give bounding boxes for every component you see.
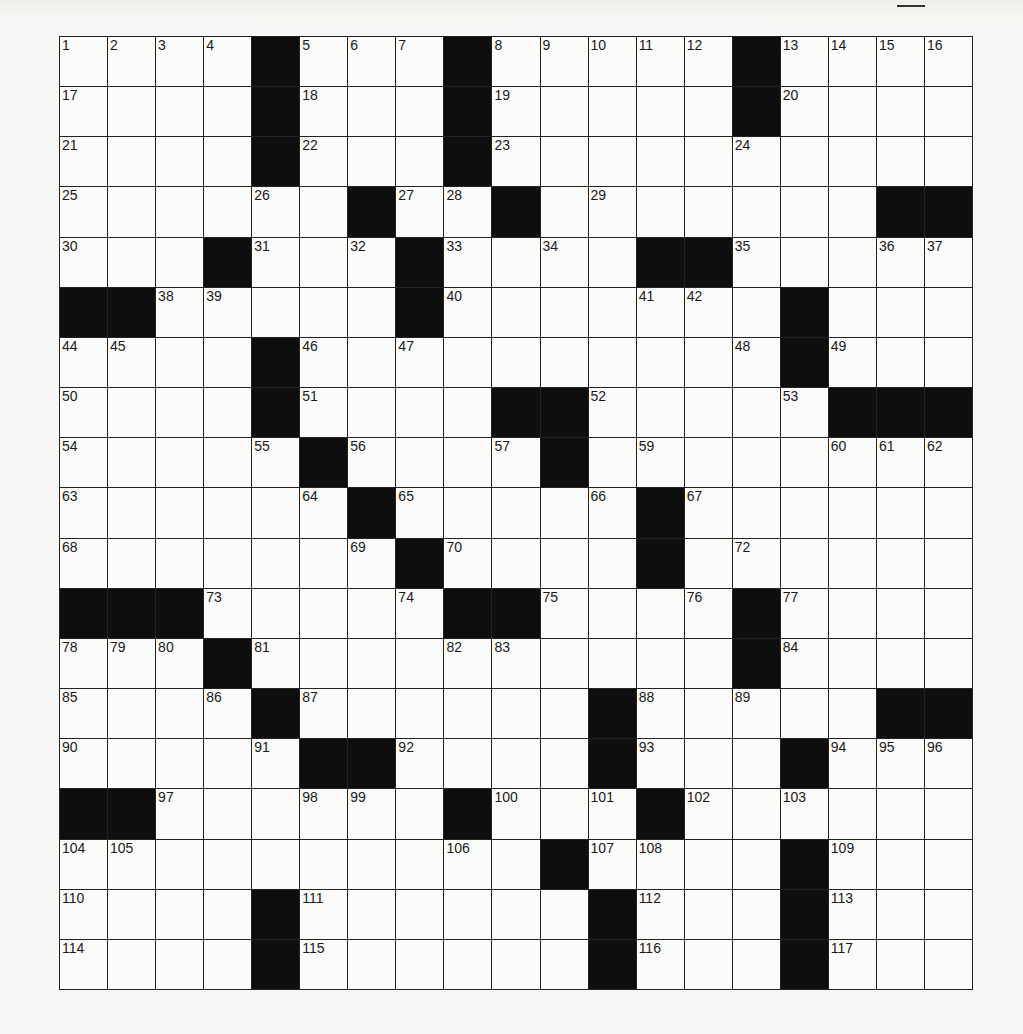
grid-cell[interactable]	[108, 488, 155, 537]
grid-cell[interactable]	[589, 288, 636, 337]
grid-cell[interactable]	[781, 238, 828, 287]
grid-cell[interactable]	[733, 488, 780, 537]
grid-cell[interactable]	[108, 539, 155, 588]
grid-cell[interactable]	[348, 589, 395, 638]
grid-cell[interactable]: 108	[637, 840, 684, 889]
grid-cell[interactable]	[541, 739, 588, 788]
grid-cell[interactable]	[925, 488, 972, 537]
grid-cell[interactable]	[396, 137, 443, 186]
grid-cell[interactable]	[492, 689, 539, 738]
grid-cell[interactable]: 113	[829, 890, 876, 939]
grid-cell[interactable]: 72	[733, 539, 780, 588]
grid-cell[interactable]: 27	[396, 187, 443, 236]
grid-cell[interactable]: 34	[541, 238, 588, 287]
grid-cell[interactable]: 51	[300, 388, 347, 437]
grid-cell[interactable]	[685, 187, 732, 236]
grid-cell[interactable]: 89	[733, 689, 780, 738]
grid-cell[interactable]	[829, 539, 876, 588]
grid-cell[interactable]: 86	[204, 689, 251, 738]
grid-cell[interactable]: 57	[492, 438, 539, 487]
grid-cell[interactable]	[781, 187, 828, 236]
grid-cell[interactable]: 41	[637, 288, 684, 337]
grid-cell[interactable]: 37	[925, 238, 972, 287]
grid-cell[interactable]	[156, 840, 203, 889]
grid-cell[interactable]: 59	[637, 438, 684, 487]
grid-cell[interactable]	[541, 639, 588, 688]
grid-cell[interactable]: 29	[589, 187, 636, 236]
grid-cell[interactable]	[396, 438, 443, 487]
grid-cell[interactable]: 91	[252, 739, 299, 788]
grid-cell[interactable]	[589, 438, 636, 487]
grid-cell[interactable]	[204, 840, 251, 889]
grid-cell[interactable]	[156, 238, 203, 287]
grid-cell[interactable]: 47	[396, 338, 443, 387]
grid-cell[interactable]	[300, 639, 347, 688]
grid-cell[interactable]: 96	[925, 739, 972, 788]
grid-cell[interactable]	[204, 890, 251, 939]
grid-cell[interactable]: 53	[781, 388, 828, 437]
grid-cell[interactable]: 12	[685, 37, 732, 86]
grid-cell[interactable]	[348, 338, 395, 387]
grid-cell[interactable]	[204, 940, 251, 989]
grid-cell[interactable]	[685, 940, 732, 989]
grid-cell[interactable]	[877, 890, 924, 939]
grid-cell[interactable]	[108, 689, 155, 738]
grid-cell[interactable]: 74	[396, 589, 443, 638]
grid-cell[interactable]	[829, 488, 876, 537]
grid-cell[interactable]	[348, 87, 395, 136]
grid-cell[interactable]	[108, 739, 155, 788]
grid-cell[interactable]	[156, 187, 203, 236]
grid-cell[interactable]: 76	[685, 589, 732, 638]
grid-cell[interactable]	[877, 840, 924, 889]
grid-cell[interactable]	[925, 890, 972, 939]
grid-cell[interactable]	[444, 890, 491, 939]
grid-cell[interactable]: 23	[492, 137, 539, 186]
grid-cell[interactable]	[733, 739, 780, 788]
grid-cell[interactable]: 16	[925, 37, 972, 86]
grid-cell[interactable]	[589, 87, 636, 136]
grid-cell[interactable]	[108, 187, 155, 236]
grid-cell[interactable]: 36	[877, 238, 924, 287]
grid-cell[interactable]	[252, 589, 299, 638]
grid-cell[interactable]: 19	[492, 87, 539, 136]
grid-cell[interactable]	[637, 87, 684, 136]
grid-cell[interactable]	[396, 789, 443, 838]
grid-cell[interactable]	[685, 137, 732, 186]
grid-cell[interactable]: 8	[492, 37, 539, 86]
grid-cell[interactable]	[252, 840, 299, 889]
grid-cell[interactable]	[396, 689, 443, 738]
grid-cell[interactable]	[877, 338, 924, 387]
grid-cell[interactable]	[348, 639, 395, 688]
grid-cell[interactable]: 44	[60, 338, 107, 387]
grid-cell[interactable]	[589, 137, 636, 186]
grid-cell[interactable]: 25	[60, 187, 107, 236]
grid-cell[interactable]	[925, 87, 972, 136]
grid-cell[interactable]: 48	[733, 338, 780, 387]
grid-cell[interactable]	[829, 639, 876, 688]
grid-cell[interactable]: 115	[300, 940, 347, 989]
grid-cell[interactable]	[252, 488, 299, 537]
grid-cell[interactable]	[156, 539, 203, 588]
grid-cell[interactable]: 26	[252, 187, 299, 236]
grid-cell[interactable]	[492, 338, 539, 387]
grid-cell[interactable]: 65	[396, 488, 443, 537]
grid-cell[interactable]	[156, 890, 203, 939]
grid-cell[interactable]: 14	[829, 37, 876, 86]
grid-cell[interactable]	[444, 488, 491, 537]
grid-cell[interactable]: 15	[877, 37, 924, 86]
grid-cell[interactable]: 7	[396, 37, 443, 86]
grid-cell[interactable]	[685, 739, 732, 788]
grid-cell[interactable]	[781, 438, 828, 487]
grid-cell[interactable]	[541, 488, 588, 537]
grid-cell[interactable]	[156, 338, 203, 387]
grid-cell[interactable]: 109	[829, 840, 876, 889]
grid-cell[interactable]: 104	[60, 840, 107, 889]
grid-cell[interactable]	[589, 338, 636, 387]
grid-cell[interactable]	[925, 789, 972, 838]
grid-cell[interactable]: 79	[108, 639, 155, 688]
grid-cell[interactable]	[685, 890, 732, 939]
grid-cell[interactable]: 70	[444, 539, 491, 588]
grid-cell[interactable]	[541, 288, 588, 337]
grid-cell[interactable]: 39	[204, 288, 251, 337]
grid-cell[interactable]	[541, 338, 588, 387]
